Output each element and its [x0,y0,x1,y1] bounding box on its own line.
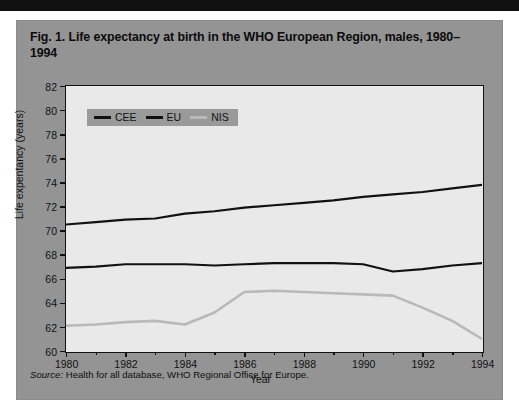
x-tick-mark [244,352,246,357]
y-tick-label: 62 [45,322,57,334]
plot-inner [66,86,483,352]
y-axis-title: Life expentancy (years) [13,110,25,219]
x-tick-mark [304,352,306,357]
y-tick-label: 64 [45,297,57,309]
y-tick-label: 72 [45,201,57,213]
legend-swatch-cee [94,116,111,119]
legend-item-eu: EU [146,112,182,123]
figure-title: Fig. 1. Life expectancy at birth in the … [30,29,470,61]
source-note: Source: Health for all database, WHO Reg… [30,369,309,380]
source-text: Health for all database, WHO Regional Of… [66,369,309,380]
x-tick-label: 1982 [114,358,137,370]
series-line-cee [66,263,482,271]
y-tick-label: 70 [45,225,57,237]
x-minor-tick-mark [393,352,395,355]
x-tick-mark [482,352,484,357]
legend-swatch-nis [190,116,207,119]
y-tick-label: 78 [45,129,57,141]
y-tick-label: 66 [45,273,57,285]
y-tick-label: 68 [45,249,57,261]
y-tick-label: 76 [45,153,57,165]
figure-panel: Fig. 1. Life expectancy at birth in the … [16,20,503,400]
x-minor-tick-mark [96,352,98,355]
x-tick-label: 1992 [411,358,434,370]
chart-legend: CEEEUNIS [87,109,238,126]
x-tick-label: 1984 [174,358,197,370]
source-label: Source: [30,369,63,380]
legend-label: EU [167,112,182,123]
chart-lines [66,86,482,351]
figure-screenshot: Fig. 1. Life expectancy at birth in the … [0,0,519,411]
legend-swatch-eu [146,116,163,119]
x-minor-tick-mark [452,352,454,355]
y-tick-label: 80 [45,105,57,117]
top-rule [0,0,519,11]
x-tick-label: 1994 [471,358,494,370]
x-minor-tick-mark [155,352,157,355]
x-tick-mark [185,352,187,357]
legend-label: CEE [115,112,137,123]
series-line-eu [66,185,482,225]
x-tick-label: 1980 [55,358,78,370]
x-tick-label: 1988 [293,358,316,370]
x-minor-tick-mark [274,352,276,355]
x-tick-label: 1986 [233,358,256,370]
legend-item-cee: CEE [94,112,137,123]
x-minor-tick-mark [333,352,335,355]
x-tick-label: 1990 [352,358,375,370]
legend-item-nis: NIS [190,112,229,123]
legend-label: NIS [211,112,229,123]
x-minor-tick-mark [214,352,216,355]
x-tick-mark [125,352,127,357]
y-tick-label: 60 [45,346,57,358]
x-tick-mark [422,352,424,357]
x-tick-mark [66,352,68,357]
x-tick-mark [363,352,365,357]
y-tick-label: 74 [45,177,57,189]
y-tick-label: 82 [45,81,57,93]
series-line-nis [66,291,482,339]
